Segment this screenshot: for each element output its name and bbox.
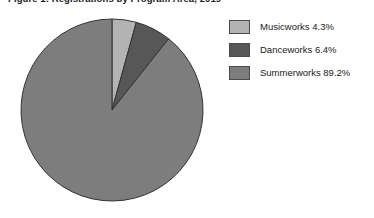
- pie-svg: [0, 0, 230, 218]
- pie-slice-group: [21, 19, 203, 201]
- legend-swatch-summerworks: [229, 66, 250, 80]
- legend-swatch-musicworks: [229, 20, 250, 34]
- legend-item-summerworks[interactable]: Summerworks 89.2%: [229, 61, 374, 84]
- legend-item-musicworks[interactable]: Musicworks 4.3%: [229, 15, 374, 38]
- legend-label-danceworks: Danceworks 6.4%: [260, 45, 337, 55]
- chart-legend: Musicworks 4.3% Danceworks 6.4% Summerwo…: [229, 15, 374, 84]
- pie-slice-summerworks[interactable]: [21, 19, 203, 201]
- legend-label-summerworks: Summerworks 89.2%: [260, 68, 350, 78]
- legend-label-musicworks: Musicworks 4.3%: [260, 22, 334, 32]
- legend-item-danceworks[interactable]: Danceworks 6.4%: [229, 38, 374, 61]
- legend-swatch-danceworks: [229, 43, 250, 57]
- pie-plot-area: [0, 0, 230, 218]
- pie-chart-figure: Figure 1: Registrations by Program Area,…: [0, 0, 374, 218]
